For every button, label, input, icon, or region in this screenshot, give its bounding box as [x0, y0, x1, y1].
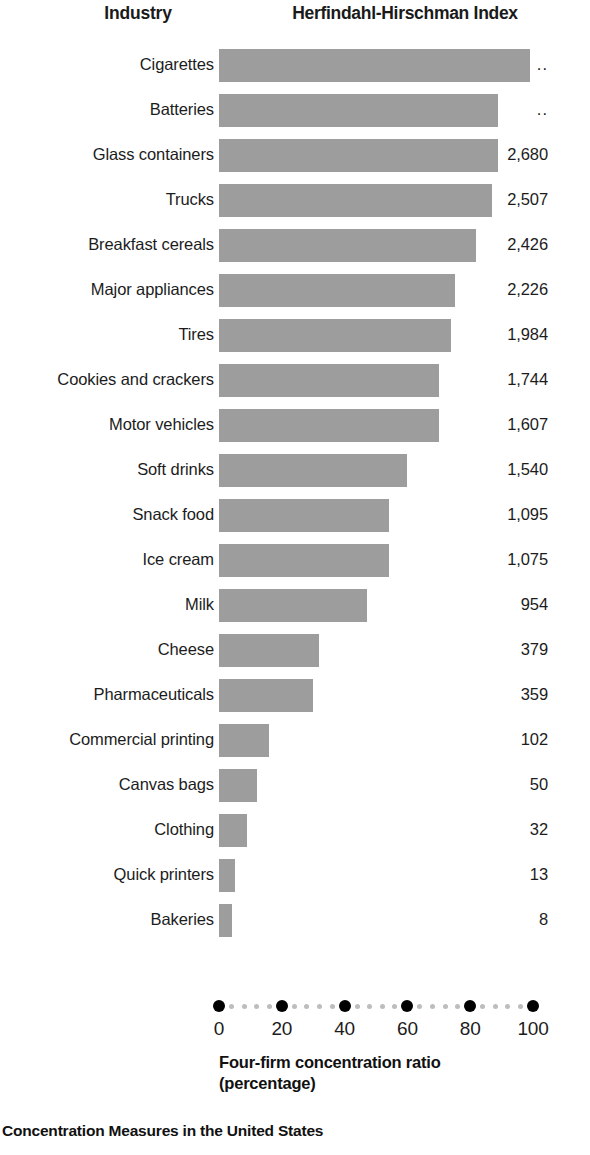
axis-minor-dot	[417, 1004, 422, 1009]
hhi-value: 8	[462, 910, 548, 929]
bar-category-label: Quick printers	[114, 865, 214, 884]
chart-row: Ice cream1,075	[0, 543, 590, 588]
hhi-value: 359	[462, 685, 548, 704]
bar-category-label: Commercial printing	[69, 730, 214, 749]
axis-tick-label: 80	[460, 1018, 481, 1040]
x-axis-title-line1: Four-firm concentration ratio	[219, 1052, 579, 1073]
axis-tick-label: 100	[517, 1018, 548, 1040]
hhi-value: 1,984	[462, 325, 548, 344]
bar-category-label: Pharmaceuticals	[94, 685, 214, 704]
bar-category-label: Cheese	[158, 640, 214, 659]
bar	[219, 589, 367, 622]
bar-category-label: Batteries	[150, 100, 214, 119]
hhi-value: 1,540	[462, 460, 548, 479]
bar-category-label: Motor vehicles	[109, 415, 214, 434]
axis-minor-dot	[229, 1004, 234, 1009]
bar	[219, 814, 247, 847]
bar	[219, 364, 439, 397]
chart-row: Canvas bags50	[0, 768, 590, 813]
axis-minor-dot	[455, 1004, 460, 1009]
hhi-value: 1,095	[462, 505, 548, 524]
axis-major-dot	[527, 1000, 539, 1012]
chart-row: Trucks2,507	[0, 183, 590, 228]
x-axis-tick-labels: 020406080100	[0, 1018, 590, 1044]
bar-category-label: Ice cream	[142, 550, 214, 569]
bar	[219, 769, 257, 802]
chart-row: Soft drinks1,540	[0, 453, 590, 498]
axis-minor-dot	[304, 1004, 309, 1009]
bar-category-label: Bakeries	[151, 910, 214, 929]
chart-row: Tires1,984	[0, 318, 590, 363]
chart-row: Batteries..	[0, 93, 590, 138]
column-header-industry: Industry	[62, 3, 214, 24]
hhi-value: ..	[462, 55, 548, 74]
axis-minor-dot	[443, 1004, 448, 1009]
axis-minor-dot	[292, 1004, 297, 1009]
hhi-value: 2,226	[462, 280, 548, 299]
hhi-value: 50	[462, 775, 548, 794]
axis-minor-dot	[330, 1004, 335, 1009]
bar	[219, 454, 407, 487]
bar	[219, 274, 455, 307]
chart-row: Clothing32	[0, 813, 590, 858]
bar-category-label: Cookies and crackers	[57, 370, 214, 389]
hhi-value: 1,075	[462, 550, 548, 569]
axis-minor-dot	[430, 1004, 435, 1009]
axis-tick-label: 0	[214, 1018, 224, 1040]
chart-row: Cheese379	[0, 633, 590, 678]
bar-category-label: Cigarettes	[140, 55, 214, 74]
bar-category-label: Breakfast cereals	[88, 235, 214, 254]
axis-tick-label: 20	[271, 1018, 292, 1040]
chart-row: Cigarettes..	[0, 48, 590, 93]
hhi-value: 1,744	[462, 370, 548, 389]
bar	[219, 229, 476, 262]
axis-minor-dot	[355, 1004, 360, 1009]
figure-caption: Concentration Measures in the United Sta…	[2, 1122, 588, 1140]
hhi-value: 1,607	[462, 415, 548, 434]
bar	[219, 679, 313, 712]
hhi-value: 32	[462, 820, 548, 839]
axis-minor-dot	[392, 1004, 397, 1009]
bar	[219, 319, 451, 352]
bar	[219, 499, 389, 532]
x-axis-title: Four-firm concentration ratio (percentag…	[219, 1052, 579, 1094]
x-axis-title-line2: (percentage)	[219, 1073, 579, 1094]
x-axis-dots	[0, 998, 590, 1016]
bar-category-label: Major appliances	[91, 280, 214, 299]
axis-minor-dot	[505, 1004, 510, 1009]
hhi-value: 2,680	[462, 145, 548, 164]
axis-major-dot	[401, 1000, 413, 1012]
axis-tick-label: 60	[397, 1018, 418, 1040]
column-headers: Industry Herfindahl-Hirschman Index	[0, 3, 590, 33]
chart-row: Cookies and crackers1,744	[0, 363, 590, 408]
axis-minor-dot	[367, 1004, 372, 1009]
axis-major-dot	[213, 1000, 225, 1012]
axis-tick-label: 40	[334, 1018, 355, 1040]
axis-minor-dot	[317, 1004, 322, 1009]
bar-category-label: Clothing	[154, 820, 214, 839]
bar	[219, 544, 389, 577]
bar-category-label: Milk	[185, 595, 214, 614]
chart-row: Commercial printing102	[0, 723, 590, 768]
column-header-hhi: Herfindahl-Hirschman Index	[222, 3, 588, 24]
chart-row: Major appliances2,226	[0, 273, 590, 318]
hhi-value: 379	[462, 640, 548, 659]
axis-minor-dot	[480, 1004, 485, 1009]
hhi-value: ..	[462, 100, 548, 119]
hhi-value: 102	[462, 730, 548, 749]
axis-major-dot	[339, 1000, 351, 1012]
chart-row: Pharmaceuticals359	[0, 678, 590, 723]
bar-category-label: Canvas bags	[119, 775, 214, 794]
bar-category-label: Glass containers	[93, 145, 214, 164]
bar	[219, 859, 235, 892]
chart-row: Quick printers13	[0, 858, 590, 903]
bar	[219, 409, 439, 442]
bar	[219, 904, 232, 937]
chart-row: Milk954	[0, 588, 590, 633]
axis-minor-dot	[518, 1004, 523, 1009]
bar-rows: Cigarettes..Batteries..Glass containers2…	[0, 48, 590, 948]
chart-row: Bakeries8	[0, 903, 590, 948]
bar	[219, 139, 498, 172]
axis-major-dot	[464, 1000, 476, 1012]
chart-row: Motor vehicles1,607	[0, 408, 590, 453]
